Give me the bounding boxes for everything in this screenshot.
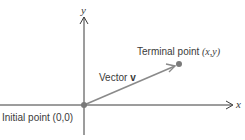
terminal-point-label: Terminal point (x,y) [137,46,220,58]
vector-diagram: y x Terminal point (x,y) Vector v Initia… [0,0,245,140]
vector-label-text: Vector [99,72,130,83]
terminal-point-dot [176,61,182,67]
y-axis-label: y [81,4,86,16]
vector-name: v [130,72,136,83]
terminal-point-coords: (x,y) [202,46,220,57]
terminal-point-label-text: Terminal point [137,46,202,57]
initial-point-label: Initial point (0,0) [2,112,73,124]
x-axis-label: x [236,98,241,110]
vector-label: Vector v [99,72,136,84]
initial-point-dot [81,102,87,108]
x-axis [0,101,233,109]
vector-arrow [84,64,175,105]
y-axis [80,17,88,135]
